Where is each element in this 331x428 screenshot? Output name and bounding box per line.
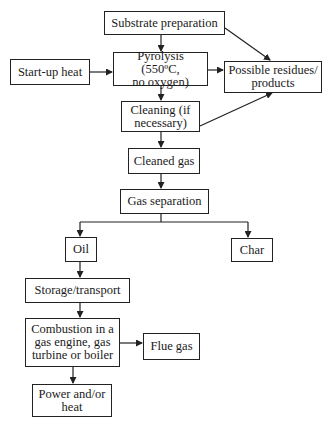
node-char: Char bbox=[231, 238, 273, 262]
node-combustion: Combustion in a gas engine, gas turbine … bbox=[25, 318, 120, 367]
node-label: Char bbox=[240, 244, 264, 257]
arrow-substrate-residues bbox=[225, 28, 270, 60]
node-label: Cleaned gas bbox=[134, 155, 195, 168]
node-oil: Oil bbox=[65, 237, 97, 262]
node-pyrolysis: Pyrolysis (550ºC, no oxygen) bbox=[113, 52, 208, 86]
node-substrate-preparation: Substrate preparation bbox=[104, 11, 225, 35]
node-label: Start-up heat bbox=[18, 66, 82, 79]
node-label: Storage/transport bbox=[34, 284, 120, 297]
node-label: Gas separation bbox=[128, 195, 202, 208]
node-label: Substrate preparation bbox=[111, 17, 218, 30]
node-label: Combustion in a gas engine, gas turbine … bbox=[31, 323, 114, 362]
node-label: Pyrolysis (550ºC, no oxygen) bbox=[117, 50, 204, 89]
node-label: Power and/or heat bbox=[39, 388, 106, 414]
node-label: Possible residues/ products bbox=[228, 64, 317, 90]
node-cleaning: Cleaning (if necessary) bbox=[121, 101, 200, 132]
node-flue-gas: Flue gas bbox=[143, 333, 200, 360]
node-cleaned-gas: Cleaned gas bbox=[128, 148, 200, 174]
arrow-cleaning-residues bbox=[200, 93, 272, 126]
node-possible-residues: Possible residues/ products bbox=[224, 61, 322, 93]
node-label: Oil bbox=[73, 243, 89, 256]
node-gas-separation: Gas separation bbox=[120, 189, 209, 214]
node-storage-transport: Storage/transport bbox=[25, 278, 130, 303]
node-label: Flue gas bbox=[150, 340, 192, 353]
node-startup-heat: Start-up heat bbox=[10, 59, 90, 85]
node-label: Cleaning (if necessary) bbox=[130, 104, 190, 130]
node-power-heat: Power and/or heat bbox=[32, 384, 112, 417]
